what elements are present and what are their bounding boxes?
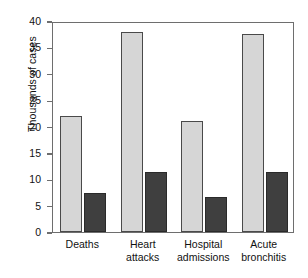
x-label-line1: Heart	[130, 238, 156, 250]
x-label-line2: bronchitis	[234, 251, 295, 264]
x-axis-label-2: Hospitaladmissions	[173, 238, 234, 263]
y-tick-label: 25	[11, 94, 41, 106]
x-axis-label-1: Heartattacks	[113, 238, 174, 263]
plot-area	[52, 22, 294, 233]
y-tick-label: 40	[11, 15, 41, 27]
x-label-line1: Hospital	[184, 238, 222, 250]
bar-light-series-3	[242, 34, 264, 232]
bar-dark-series-2	[205, 197, 227, 232]
y-tick-label: 0	[11, 226, 41, 238]
x-axis-label-3: Acutebronchitis	[234, 238, 295, 263]
x-label-line1: Acute	[250, 238, 277, 250]
y-tick-label: 10	[11, 173, 41, 185]
bar-light-series-0	[60, 116, 82, 232]
x-label-line1: Deaths	[66, 238, 99, 250]
y-tick-label: 35	[11, 41, 41, 53]
y-tick-label: 20	[11, 121, 41, 133]
y-tick-label: 15	[11, 147, 41, 159]
bar-chart: Thousands of cases 0510152025303540 Deat…	[0, 0, 308, 278]
x-axis-label-0: Deaths	[52, 238, 113, 251]
bar-dark-series-3	[266, 172, 288, 232]
bar-dark-series-1	[145, 172, 167, 232]
y-tick-label: 30	[11, 68, 41, 80]
bar-light-series-1	[121, 32, 143, 232]
x-label-line2: admissions	[173, 251, 234, 264]
bar-light-series-2	[181, 121, 203, 232]
y-tick-label: 5	[11, 200, 41, 212]
bar-dark-series-0	[84, 193, 106, 232]
y-axis-title: Thousands of cases	[26, 4, 38, 164]
x-label-line2: attacks	[113, 251, 174, 264]
